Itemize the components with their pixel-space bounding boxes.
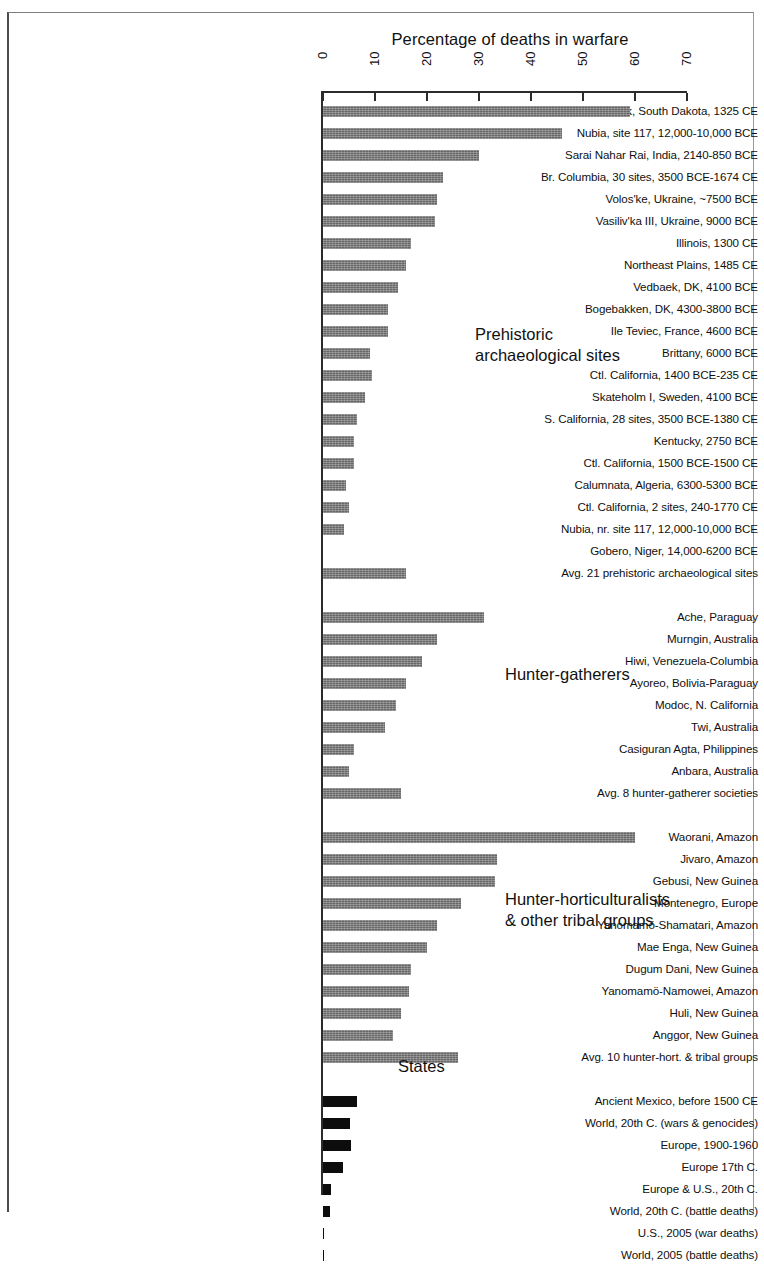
bar	[323, 1228, 324, 1239]
row-label: Ancient Mexico, before 1500 CE	[449, 1094, 764, 1108]
row-label: Modoc, N. California	[449, 698, 764, 712]
row-label: Ctl. California, 2 sites, 240-1770 CE	[449, 500, 764, 514]
group-annotation-line: & other tribal groups	[505, 910, 670, 931]
x-axis-tick	[478, 93, 480, 101]
row-label: Europe 17th C.	[449, 1160, 764, 1174]
bar	[323, 392, 365, 403]
row-label: Northeast Plains, 1485 CE	[449, 258, 764, 272]
x-axis-tick-label: 10	[367, 52, 382, 86]
chart-row: Ayoreo, Bolivia-Paraguay	[0, 673, 764, 695]
chart-row: Ctl. California, 1400 BCE-235 CE	[0, 365, 764, 387]
row-label: Europe, 1900-1960	[449, 1138, 764, 1152]
bar	[323, 986, 409, 997]
chart-row: Ctl. California, 2 sites, 240-1770 CE	[0, 497, 764, 519]
chart-row: Ile Teviec, France, 4600 BCE	[0, 321, 764, 343]
row-label: Avg. 10 hunter-hort. & tribal groups	[449, 1050, 764, 1064]
row-label: Br. Columbia, 30 sites, 3500 BCE-1674 CE	[449, 170, 764, 184]
row-label: Huli, New Guinea	[449, 1006, 764, 1020]
row-label: Yanomamö-Namowei, Amazon	[449, 984, 764, 998]
bar	[323, 744, 354, 755]
row-label: Avg. 21 prehistoric archaeological sites	[449, 566, 764, 580]
bar	[323, 414, 357, 425]
chart-row: Brittany, 6000 BCE	[0, 343, 764, 365]
row-label: Ache, Paraguay	[449, 610, 764, 624]
bar	[323, 216, 435, 227]
group-annotation: Prehistoricarchaeological sites	[475, 324, 620, 366]
chart-row: S. California, 28 sites, 3500 BCE-1380 C…	[0, 409, 764, 431]
bar	[323, 678, 406, 689]
chart-row: Avg. 21 prehistoric archaeological sites	[0, 563, 764, 585]
row-label: Casiguran Agta, Philippines	[449, 742, 764, 756]
chart-row: Casiguran Agta, Philippines	[0, 739, 764, 761]
row-label: Mae Enga, New Guinea	[449, 940, 764, 954]
chart-row: World, 2005 (battle deaths)	[0, 1245, 764, 1265]
x-axis-tick	[426, 93, 428, 101]
x-axis-tick	[686, 93, 688, 101]
chart-row: Illinois, 1300 CE	[0, 233, 764, 255]
chart-row: Ache, Paraguay	[0, 607, 764, 629]
chart-row: Ctl. California, 1500 BCE-1500 CE	[0, 453, 764, 475]
row-label: S. California, 28 sites, 3500 BCE-1380 C…	[449, 412, 764, 426]
chart-row: Kentucky, 2750 BCE	[0, 431, 764, 453]
chart-row: Hiwi, Venezuela-Columbia	[0, 651, 764, 673]
chart-row: Anbara, Australia	[0, 761, 764, 783]
x-axis-tick-label: 0	[315, 52, 330, 86]
x-axis-tick-label: 50	[575, 52, 590, 86]
chart-row: Vedbaek, DK, 4100 BCE	[0, 277, 764, 299]
bar	[323, 1162, 343, 1173]
x-axis-tick-label: 60	[627, 52, 642, 86]
bar	[323, 150, 479, 161]
bar	[323, 524, 344, 535]
chart-row: Europe, 1900-1960	[0, 1135, 764, 1157]
bar	[323, 854, 497, 865]
bar	[323, 370, 372, 381]
x-axis-tick	[530, 93, 532, 101]
row-label: Vedbaek, DK, 4100 BCE	[449, 280, 764, 294]
chart-row: Dugum Dani, New Guinea	[0, 959, 764, 981]
x-axis-tick	[322, 93, 324, 101]
group-annotation-line: Hunter-gatherers	[505, 664, 630, 685]
row-label: Dugum Dani, New Guinea	[449, 962, 764, 976]
bar	[323, 172, 443, 183]
bar	[323, 612, 484, 623]
x-axis-tick-label: 40	[523, 52, 538, 86]
bar	[323, 348, 370, 359]
bar	[323, 304, 388, 315]
chart-row: Avg. 10 hunter-hort. & tribal groups	[0, 1047, 764, 1069]
x-axis-line	[321, 91, 687, 93]
bar	[323, 568, 406, 579]
bar	[323, 1140, 351, 1151]
x-axis-tick	[374, 93, 376, 101]
chart-row: Yanomamö-Namowei, Amazon	[0, 981, 764, 1003]
chart-row: Modoc, N. California	[0, 695, 764, 717]
chart-row: Skateholm I, Sweden, 4100 BCE	[0, 387, 764, 409]
group-annotation: Hunter-horticulturalists& other tribal g…	[505, 889, 670, 931]
chart-row: Murngin, Australia	[0, 629, 764, 651]
chart-row: Anggor, New Guinea	[0, 1025, 764, 1047]
chart-row: Europe 17th C.	[0, 1157, 764, 1179]
bar	[323, 238, 411, 249]
bar	[323, 876, 495, 887]
chart-row: Nubia, nr. site 117, 12,000-10,000 BCE	[0, 519, 764, 541]
row-label: Illinois, 1300 CE	[449, 236, 764, 250]
chart-row: Waorani, Amazon	[0, 827, 764, 849]
row-label: Europe & U.S., 20th C.	[449, 1182, 764, 1196]
chart-row: U.S., 2005 (war deaths)	[0, 1223, 764, 1245]
bar	[323, 1096, 357, 1107]
bar	[323, 260, 406, 271]
bar	[323, 722, 385, 733]
bar	[323, 502, 349, 513]
x-axis-tick-label: 30	[471, 52, 486, 86]
bar	[323, 128, 562, 139]
chart-row: Br. Columbia, 30 sites, 3500 BCE-1674 CE	[0, 167, 764, 189]
chart-row: Jivaro, Amazon	[0, 849, 764, 871]
bar	[323, 1250, 324, 1261]
bar	[323, 964, 411, 975]
bar	[323, 282, 398, 293]
bar	[323, 898, 461, 909]
bar	[323, 1008, 401, 1019]
row-label: Anbara, Australia	[449, 764, 764, 778]
bar	[323, 326, 388, 337]
bar	[323, 1206, 330, 1217]
